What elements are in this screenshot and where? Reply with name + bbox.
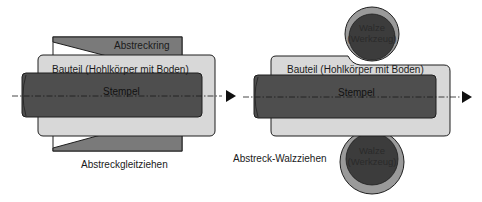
- bauteil-label-right: Bauteil (Hohlkörper mit Boden): [287, 65, 424, 75]
- bauteil-label-left: Bauteil (Hohlkörper mit Boden): [52, 65, 189, 75]
- caption-left: Abstreckgleitziehen: [81, 160, 168, 170]
- abstreckring-label: Abstreckring: [114, 41, 170, 51]
- caption-right: Abstreck-Walzziehen: [233, 154, 327, 164]
- top-roller-label: Walze (Werkzeug): [342, 22, 402, 44]
- arrow-right-icon: [462, 91, 472, 103]
- stempel-label-left: Stempel: [103, 87, 140, 97]
- bottom-roller-label: Walze (Werkzeug): [342, 145, 402, 167]
- diagram-canvas: [0, 0, 482, 202]
- stempel-label-right: Stempel: [338, 88, 375, 98]
- arrow-right-icon: [226, 90, 236, 102]
